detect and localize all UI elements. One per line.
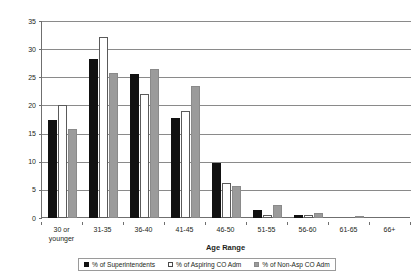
legend-label: % of Aspiring CO Adm bbox=[176, 261, 241, 268]
x-axis-tick-label-line: 31-35 bbox=[82, 226, 123, 235]
x-axis-tick-mark bbox=[205, 222, 206, 225]
x-axis-tick-mark bbox=[82, 222, 83, 225]
legend-entry: % of Superintendents bbox=[84, 261, 155, 268]
x-axis-tick-label-line: 56-60 bbox=[287, 226, 328, 235]
white-square-swatch bbox=[168, 262, 173, 267]
bar bbox=[304, 215, 314, 218]
legend-entry: % of Non-Asp CO Adm bbox=[254, 261, 329, 268]
bar bbox=[89, 59, 99, 218]
bar bbox=[171, 118, 181, 218]
x-axis-tick-label-line: 30 or bbox=[41, 226, 82, 235]
bar bbox=[212, 163, 222, 218]
y-axis-tick-mark bbox=[39, 218, 42, 219]
bar-group bbox=[124, 21, 165, 218]
gray-square-swatch bbox=[254, 262, 259, 267]
bar bbox=[232, 186, 242, 218]
legend-label: % of Non-Asp CO Adm bbox=[262, 261, 329, 268]
x-axis-tick-label: 66+ bbox=[369, 226, 410, 235]
bar-group bbox=[288, 21, 329, 218]
black-square-swatch bbox=[84, 262, 89, 267]
bar bbox=[48, 120, 58, 219]
y-axis-tick-label: 25 bbox=[12, 74, 36, 81]
x-axis-tick-label: 51-55 bbox=[246, 226, 287, 235]
y-axis-tick-label: 15 bbox=[12, 130, 36, 137]
bar-group bbox=[370, 21, 411, 218]
bar bbox=[294, 215, 304, 218]
chart-legend: % of Superintendents% of Aspiring CO Adm… bbox=[78, 258, 336, 271]
bars-layer bbox=[42, 21, 411, 218]
x-axis-tick-label-line: younger bbox=[41, 235, 82, 244]
x-axis-tick-mark bbox=[123, 222, 124, 225]
bar-group bbox=[165, 21, 206, 218]
x-axis-title: Age Range bbox=[41, 243, 410, 252]
x-axis-tick-label-line: 46-50 bbox=[205, 226, 246, 235]
bar bbox=[99, 37, 109, 218]
bar-group bbox=[42, 21, 83, 218]
bar bbox=[314, 213, 324, 218]
plot-area bbox=[41, 21, 410, 218]
y-axis-tick-label: 5 bbox=[12, 186, 36, 193]
x-axis-tick-label: 36-40 bbox=[123, 226, 164, 235]
y-axis-tick-label: 35 bbox=[12, 18, 36, 25]
x-axis-tick-label: 46-50 bbox=[205, 226, 246, 235]
bar bbox=[273, 205, 283, 218]
x-axis-tick-label-line: 41-45 bbox=[164, 226, 205, 235]
bar-group bbox=[83, 21, 124, 218]
bar-group bbox=[247, 21, 288, 218]
bar bbox=[222, 183, 232, 218]
y-axis-tick-label: 20 bbox=[12, 102, 36, 109]
legend-entry: % of Aspiring CO Adm bbox=[168, 261, 241, 268]
y-axis-tick-label: 10 bbox=[12, 158, 36, 165]
x-axis-tick-label: 31-35 bbox=[82, 226, 123, 235]
bar-group bbox=[206, 21, 247, 218]
x-axis-tick-label: 61-65 bbox=[328, 226, 369, 235]
legend-label: % of Superintendents bbox=[92, 261, 155, 268]
x-axis-tick-label-line: 36-40 bbox=[123, 226, 164, 235]
x-axis-tick-mark bbox=[287, 222, 288, 225]
bar bbox=[181, 111, 191, 218]
x-axis-tick-mark bbox=[41, 222, 42, 225]
x-axis-tick-label-line: 66+ bbox=[369, 226, 410, 235]
x-axis-tick-mark bbox=[369, 222, 370, 225]
bar bbox=[150, 69, 160, 218]
x-axis-tick-mark bbox=[246, 222, 247, 225]
x-axis-tick-mark bbox=[328, 222, 329, 225]
x-axis-tick-mark bbox=[410, 222, 411, 225]
x-axis-tick-label: 56-60 bbox=[287, 226, 328, 235]
bar bbox=[130, 74, 140, 218]
x-axis-tick-label: 41-45 bbox=[164, 226, 205, 235]
bar bbox=[140, 94, 150, 218]
x-axis-tick-label: 30 oryounger bbox=[41, 226, 82, 243]
bar bbox=[263, 215, 273, 218]
bar bbox=[68, 129, 78, 218]
x-axis-tick-label-line: 51-55 bbox=[246, 226, 287, 235]
y-axis-tick-label: 30 bbox=[12, 46, 36, 53]
bar bbox=[109, 73, 119, 218]
x-axis-tick-mark bbox=[164, 222, 165, 225]
bar-chart: 05101520253035 30 oryounger31-3536-4041-… bbox=[0, 0, 418, 279]
y-axis-tick-label: 0 bbox=[12, 215, 36, 222]
bar bbox=[58, 105, 68, 218]
bar-group bbox=[329, 21, 370, 218]
x-axis-tick-label-line: 61-65 bbox=[328, 226, 369, 235]
bar bbox=[253, 210, 263, 218]
bar bbox=[191, 86, 201, 218]
bar bbox=[355, 216, 365, 218]
